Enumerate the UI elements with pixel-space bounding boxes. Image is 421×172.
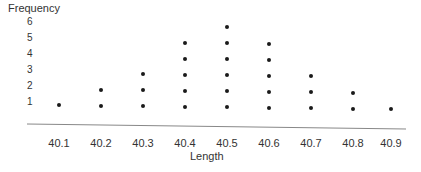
x-tick-40.9: 40.9: [371, 137, 411, 149]
data-dot: [389, 107, 393, 111]
data-dot: [267, 90, 271, 94]
x-tick-40.8: 40.8: [333, 137, 373, 149]
data-dot: [57, 103, 61, 107]
data-dot: [183, 41, 187, 45]
x-tick-40.2: 40.2: [81, 137, 121, 149]
x-tick-40.6: 40.6: [249, 137, 289, 149]
data-dot: [141, 72, 145, 76]
data-dot: [351, 91, 355, 95]
data-dot: [309, 74, 313, 78]
data-dot: [183, 89, 187, 93]
data-dot: [309, 106, 313, 110]
data-dot: [267, 106, 271, 110]
x-axis-label: Length: [190, 150, 224, 162]
data-dot: [141, 88, 145, 92]
data-dot: [183, 73, 187, 77]
data-dot: [225, 89, 229, 93]
data-dot: [99, 88, 103, 92]
x-tick-40.5: 40.5: [207, 137, 247, 149]
x-tick-40.7: 40.7: [291, 137, 331, 149]
data-dot: [225, 41, 229, 45]
data-dot: [351, 107, 355, 111]
x-tick-40.1: 40.1: [39, 137, 79, 149]
data-dot: [225, 105, 229, 109]
data-dot: [267, 42, 271, 46]
data-dot: [99, 104, 103, 108]
data-dot: [183, 57, 187, 61]
data-dot: [183, 105, 187, 109]
data-dot: [141, 104, 145, 108]
data-dot: [309, 90, 313, 94]
data-dot: [225, 73, 229, 77]
x-tick-40.4: 40.4: [165, 137, 205, 149]
data-dot: [225, 25, 229, 29]
data-dot: [225, 57, 229, 61]
x-tick-40.3: 40.3: [123, 137, 163, 149]
data-dot: [267, 74, 271, 78]
data-dot: [267, 58, 271, 62]
